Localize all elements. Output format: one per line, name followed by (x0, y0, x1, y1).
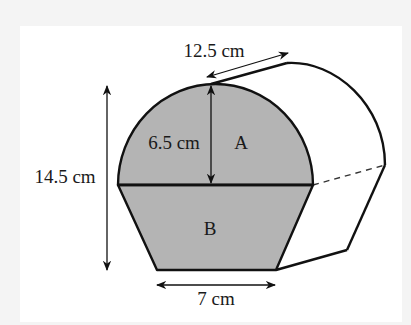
back-top-edge (211, 63, 287, 84)
region-b-label: B (204, 218, 217, 239)
total-height-label: 14.5 cm (34, 166, 95, 187)
prism-length-label: 12.5 cm (183, 40, 244, 61)
base-width-label: 7 cm (197, 288, 235, 309)
hidden-back-diameter-edge (313, 165, 385, 185)
back-right-slant-edge (347, 165, 385, 250)
radius-label: 6.5 cm (148, 132, 200, 153)
back-bottom-edge (276, 250, 347, 270)
region-a-label: A (234, 132, 248, 153)
prism-diagram: 12.5 cm 6.5 cm 14.5 cm 7 cm A B (0, 0, 411, 325)
